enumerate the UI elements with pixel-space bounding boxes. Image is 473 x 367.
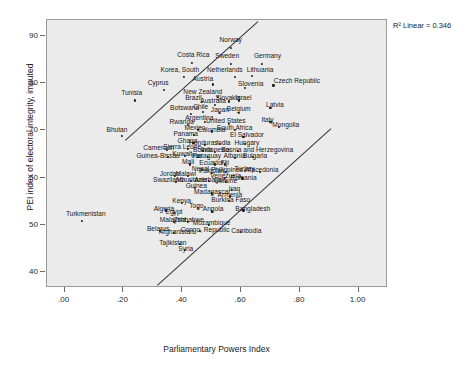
- data-point-label: Botswana: [170, 105, 199, 112]
- plot-canvas: NorwaySwedenGermanyCosta RicaKorea, Sout…: [47, 20, 386, 286]
- r-squared-annotation: R² Linear = 0.346: [393, 21, 451, 30]
- figure-caption: [46, 357, 426, 367]
- data-point-label: Mongolia: [272, 122, 299, 129]
- data-point: [251, 75, 253, 77]
- data-point-label: Israel: [235, 94, 251, 101]
- x-axis-tick-label: .00: [58, 295, 69, 304]
- data-point-label: Bulgaria: [243, 153, 267, 160]
- data-point: [272, 84, 274, 86]
- data-point-label: Sweden: [215, 53, 239, 60]
- data-point-label: Tunisia: [121, 90, 142, 97]
- x-axis-tick-label: .40: [176, 295, 187, 304]
- data-point-label: Brazil: [185, 95, 202, 102]
- data-point-label: Germany: [254, 53, 281, 60]
- data-point: [230, 47, 232, 49]
- data-point-label: Syria: [178, 246, 193, 253]
- x-axis-title: Parliamentary Powers Index: [46, 344, 387, 354]
- data-point: [163, 89, 165, 91]
- data-point-label: Ukraine: [214, 178, 237, 185]
- data-point: [183, 76, 185, 78]
- x-axis-tick-label: .60: [234, 295, 245, 304]
- y-axis-tick-label: 40: [0, 267, 38, 276]
- data-point-label: Korea, South: [161, 67, 200, 74]
- data-point-label: Latvia: [266, 102, 284, 109]
- scatter-plot-figure: PEI index of electoral integrity, impute…: [0, 0, 473, 367]
- y-axis-tick-mark: [40, 129, 45, 130]
- data-point-label: Netherlands: [207, 67, 243, 74]
- data-point-label: Congo, Republic: [181, 226, 230, 233]
- data-point: [134, 99, 136, 101]
- data-point-label: Czech Republic: [274, 77, 320, 84]
- x-axis-tick-mark: [181, 287, 182, 292]
- data-point-label: Bhutan: [107, 127, 128, 134]
- data-point-label: Bangladesh: [235, 206, 270, 213]
- data-point-label: Costa Rica: [177, 51, 209, 58]
- data-point-label: Cyprus: [148, 80, 169, 87]
- x-axis-tick-mark: [240, 287, 241, 292]
- y-axis-tick-mark: [40, 224, 45, 225]
- y-axis-tick-label: 60: [0, 173, 38, 182]
- y-axis-ticks: 405060708090: [0, 0, 46, 367]
- y-axis-tick-label: 80: [0, 78, 38, 87]
- data-point-label: Burkina Faso: [211, 196, 250, 203]
- y-axis-tick-mark: [40, 82, 45, 83]
- data-point-label: Egypt: [166, 209, 183, 216]
- data-point-label: Turkmenistan: [66, 211, 106, 218]
- data-point-label: Togo: [189, 202, 203, 209]
- data-point: [261, 63, 263, 65]
- y-axis-tick-mark: [40, 35, 45, 36]
- data-point-label: Slovenia: [238, 81, 263, 88]
- x-axis-tick-mark: [299, 287, 300, 292]
- data-point: [202, 111, 204, 113]
- plot-area: NorwaySwedenGermanyCosta RicaKorea, Sout…: [46, 19, 387, 287]
- data-point-label: Angola: [203, 206, 224, 213]
- x-axis-tick-label: .80: [293, 295, 304, 304]
- y-axis-tick-label: 70: [0, 125, 38, 134]
- data-point-label: Austria: [193, 76, 214, 83]
- x-axis-tick-mark: [122, 287, 123, 292]
- x-axis-tick-label: .20: [117, 295, 128, 304]
- data-point-label: Lithuania: [247, 67, 274, 74]
- x-axis-tick-label: 1.00: [350, 295, 366, 304]
- data-point: [212, 83, 214, 85]
- y-axis-tick-mark: [40, 177, 45, 178]
- x-axis-tick-mark: [64, 287, 65, 292]
- data-point-label: Cambodia: [231, 228, 261, 235]
- data-point: [230, 63, 232, 65]
- data-point: [243, 87, 245, 89]
- y-axis-tick-mark: [40, 271, 45, 272]
- data-point-label: Kenya: [172, 198, 191, 205]
- y-axis-tick-label: 50: [0, 220, 38, 229]
- data-point-label: Belgium: [227, 106, 251, 113]
- data-point: [81, 220, 83, 222]
- data-point-label: El Salvador: [230, 131, 264, 138]
- x-axis-tick-mark: [358, 287, 359, 292]
- data-point: [234, 76, 236, 78]
- data-point-label: Norway: [220, 37, 242, 44]
- data-point: [191, 62, 193, 64]
- y-axis-tick-label: 90: [0, 31, 38, 40]
- data-point: [121, 135, 123, 137]
